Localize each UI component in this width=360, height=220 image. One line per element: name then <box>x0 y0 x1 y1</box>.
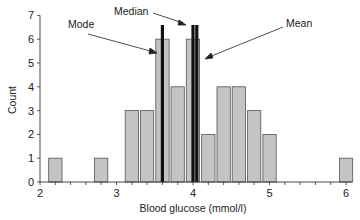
histogram-bar <box>248 111 261 182</box>
histogram-bar <box>339 158 352 182</box>
y-tick-label: 7 <box>28 9 34 21</box>
x-tick-label: 5 <box>266 187 272 199</box>
x-tick-label: 3 <box>113 187 119 199</box>
histogram-bar <box>95 158 108 182</box>
histogram-bar <box>263 134 276 182</box>
y-axis-label: Count <box>6 86 18 114</box>
y-tick-label: 3 <box>28 105 34 117</box>
y-tick-label: 0 <box>28 176 34 188</box>
median-line <box>191 25 194 182</box>
histogram-bar <box>49 158 62 182</box>
x-tick-label: 4 <box>190 187 196 199</box>
y-tick-label: 4 <box>28 81 34 93</box>
mean-line <box>195 25 198 182</box>
histogram-bars <box>49 39 353 182</box>
histogram-chart: 2345601234567 Count Blood glucose (mmol/… <box>0 0 360 220</box>
mean-annotation: Mean <box>286 17 312 29</box>
mode-annotation: Mode <box>68 18 94 30</box>
median-annotation: Median <box>114 5 149 17</box>
y-tick-label: 5 <box>28 57 34 69</box>
histogram-bar <box>125 111 138 182</box>
y-tick-label: 1 <box>28 152 34 164</box>
histogram-bar <box>217 87 230 182</box>
histogram-bar <box>232 87 245 182</box>
x-tick-label: 6 <box>343 187 349 199</box>
x-axis-label: Blood glucose (mmol/l) <box>140 202 247 214</box>
histogram-bar <box>171 87 184 182</box>
y-tick-label: 6 <box>28 33 34 45</box>
annotation-arrows <box>88 13 283 59</box>
mode-line <box>161 25 164 182</box>
x-tick-label: 2 <box>37 187 43 199</box>
histogram-bar <box>140 111 153 182</box>
y-tick-label: 2 <box>28 128 34 140</box>
histogram-bar <box>202 134 215 182</box>
